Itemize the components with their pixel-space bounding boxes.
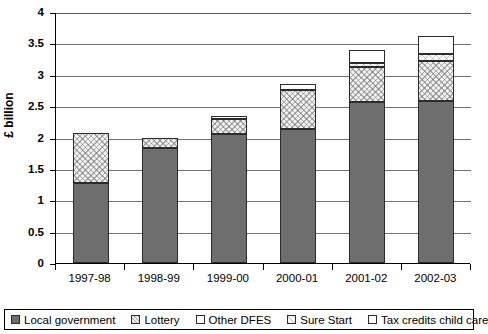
gridline [56,107,471,108]
bar-segment-lottery [349,67,385,102]
x-tick-mark [332,264,333,270]
bar-segment-lottery [211,119,247,135]
bar-1997-98 [73,132,109,263]
bar-2002-03 [418,36,454,263]
bar-segment-surestart [418,54,454,61]
bar-segment-lottery [73,133,109,184]
x-tick-label: 1998-99 [124,272,194,286]
legend-label: Lottery [144,314,179,326]
x-tick-mark [55,264,56,270]
legend-label: Tax credits child care [381,314,488,326]
y-axis-labels: 00.511.522.533.54 [0,0,50,334]
plot-area [55,13,470,264]
legend-item-otherdfes[interactable]: Other DFES [196,314,272,326]
bar-1998-99 [142,138,178,263]
bar-segment-local [418,101,454,263]
bar-segment-lottery [418,61,454,101]
x-tick-label: 2000-01 [262,272,332,286]
y-tick-label: 4 [0,7,44,19]
legend-item-surestart[interactable]: Sure Start [287,314,352,326]
legend-label: Other DFES [209,314,272,326]
legend-swatch-icon [11,315,20,324]
gridline [56,201,471,202]
bar-segment-lottery [280,90,316,130]
gridline [56,76,471,77]
x-tick-label: 2002-03 [400,272,470,286]
x-tick-label: 1997-98 [55,272,125,286]
bar-segment-local [349,102,385,263]
bar-segment-otherdfes [211,116,247,119]
legend-swatch-icon [287,315,296,324]
legend-label: Local government [24,314,115,326]
x-tick-mark [401,264,402,270]
x-tick-mark [124,264,125,270]
x-tick-mark [263,264,264,270]
y-tick-label: 3.5 [0,38,44,50]
gridline [56,139,471,140]
gridline [56,13,471,14]
bar-segment-local [73,183,109,263]
legend-item-taxcredits[interactable]: Tax credits child care [368,314,488,326]
bar-segment-local [142,148,178,263]
y-tick-label: 0.5 [0,227,44,239]
bar-segment-taxcredits [418,36,454,54]
bar-segment-local [211,134,247,263]
gridline [56,170,471,171]
bar-segment-surestart [349,63,385,67]
y-tick-label: 2 [0,133,44,145]
y-tick-label: 1 [0,195,44,207]
x-axis-labels: 1997-981998-991999-002000-012001-022002-… [55,272,470,288]
gridline [56,44,471,45]
legend-swatch-icon [131,315,140,324]
gridline [56,233,471,234]
legend-swatch-icon [368,315,377,324]
chart-legend: Local governmentLotteryOther DFESSure St… [4,309,474,330]
bar-segment-lottery [142,138,178,147]
x-tick-label: 1999-00 [193,272,263,286]
x-tick-mark [193,264,194,270]
bar-segment-local [280,129,316,263]
legend-item-local[interactable]: Local government [11,314,115,326]
legend-swatch-icon [196,315,205,324]
x-axis-ticks [55,264,470,270]
x-tick-label: 2001-02 [331,272,401,286]
y-tick-label: 0 [0,258,44,270]
bar-2001-02 [349,50,385,263]
bar-2000-01 [280,84,316,263]
y-tick-label: 3 [0,70,44,82]
legend-label: Sure Start [300,314,352,326]
bar-1999-00 [211,116,247,263]
x-tick-mark [470,264,471,270]
y-tick-label: 2.5 [0,101,44,113]
bar-segment-taxcredits [349,50,385,63]
y-tick-label: 1.5 [0,164,44,176]
bar-segment-otherdfes [280,84,316,90]
legend-item-lottery[interactable]: Lottery [131,314,179,326]
